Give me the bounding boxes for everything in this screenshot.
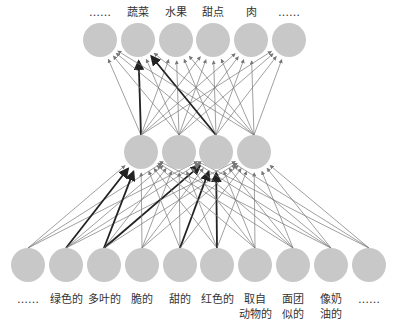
input-label: 绿色的 — [50, 292, 83, 307]
edge-hidden-output — [113, 56, 179, 135]
edge-input-hidden — [66, 162, 235, 248]
input-node — [125, 248, 159, 282]
input-label: 红色的 — [201, 292, 234, 307]
edge-input-hidden — [232, 165, 331, 248]
output-label: 水果 — [165, 5, 187, 20]
output-node — [121, 23, 155, 57]
edge-hidden-output — [184, 59, 216, 135]
edge-input-hidden — [180, 172, 209, 248]
input-label: …… — [17, 292, 39, 307]
edge-hidden-output — [252, 61, 254, 135]
output-node — [234, 23, 268, 57]
input-label: 取自 动物的 — [239, 292, 272, 322]
input-label: 脆的 — [131, 292, 153, 307]
output-node — [272, 23, 306, 57]
edge-input-hidden — [141, 173, 142, 248]
edge-input-hidden — [142, 172, 171, 248]
edge-hidden-output — [216, 60, 244, 135]
hidden-node — [124, 135, 158, 169]
output-label: …… — [278, 5, 300, 20]
edge-hidden-output — [221, 59, 254, 135]
output-label: 蔬菜 — [127, 5, 149, 20]
output-label: …… — [89, 5, 111, 20]
hidden-node — [199, 135, 233, 169]
output-label: 甜点 — [202, 5, 224, 20]
edge-input-hidden — [66, 166, 163, 248]
edge-input-hidden — [217, 172, 246, 248]
input-node — [314, 248, 348, 282]
output-node — [159, 23, 193, 57]
edge-input-hidden — [198, 161, 369, 248]
edge-hidden-output — [214, 61, 216, 135]
input-label: 多叶的 — [88, 292, 121, 307]
input-node — [163, 248, 197, 282]
hidden-node — [237, 135, 271, 169]
input-label: 甜的 — [169, 292, 191, 307]
neural-network-diagram — [0, 0, 395, 324]
output-node — [83, 23, 117, 57]
input-label: 面团 似的 — [282, 292, 304, 322]
edge-hidden-output — [141, 57, 200, 135]
edge-input-hidden — [270, 165, 369, 248]
edge-input-hidden — [104, 169, 166, 248]
input-node — [11, 248, 45, 282]
edge-input-hidden — [234, 163, 369, 248]
input-label: 像奶 油的 — [320, 292, 342, 322]
edge-hidden-output — [189, 56, 254, 135]
edge-input-hidden — [142, 166, 238, 248]
output-label: 肉 — [246, 5, 257, 20]
input-node — [276, 248, 310, 282]
edge-input-hidden — [104, 166, 200, 248]
input-node — [87, 248, 121, 282]
edge-hidden-output — [116, 53, 216, 135]
hidden-node — [162, 135, 196, 169]
output-node — [196, 23, 230, 57]
input-label: …… — [358, 292, 380, 307]
input-node — [238, 248, 272, 282]
input-node — [200, 248, 234, 282]
edge-input-hidden — [149, 171, 180, 248]
edge-input-hidden — [262, 171, 293, 248]
input-node — [49, 248, 83, 282]
input-node — [352, 248, 386, 282]
edge-hidden-output — [108, 59, 141, 135]
edge-hidden-output — [254, 60, 282, 135]
